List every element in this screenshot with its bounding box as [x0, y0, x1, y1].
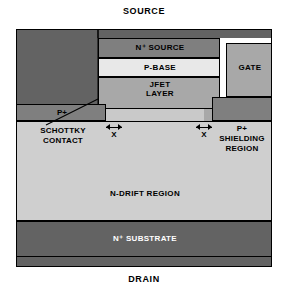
region-p-plus-left: P+ — [16, 104, 106, 121]
dimension-x-left: X — [106, 123, 122, 143]
region-n-substrate-label: N⁺ SUBSTRATE — [17, 235, 273, 244]
region-n-drift-label: N-DRIFT REGION — [17, 190, 273, 199]
region-p-base-label: P-BASE — [99, 64, 221, 73]
region-p-plus-label: P+ — [57, 109, 97, 118]
drain-terminal-label: DRAIN — [0, 275, 288, 284]
schottky-contact-label: SCHOTTKY CONTACT — [20, 126, 106, 146]
schottky-metal-block — [16, 29, 98, 104]
region-p-base: P-BASE — [98, 58, 220, 77]
region-gate: GATE — [226, 43, 272, 97]
drain-metal-layer — [16, 257, 272, 267]
region-jfet-layer: JFET LAYER — [98, 77, 220, 109]
p-shielding-region-label: P+ SHIELDING REGION — [206, 124, 278, 154]
source-terminal-label: SOURCE — [0, 7, 288, 16]
region-n-substrate: N⁺ SUBSTRATE — [16, 221, 272, 257]
region-gate-label: GATE — [227, 64, 273, 73]
dimension-x-right-label: X — [196, 130, 212, 139]
region-n-source: N⁺ SOURCE — [98, 38, 220, 58]
jfet-notch-right — [204, 109, 212, 121]
dimension-x-left-label: X — [106, 130, 122, 139]
region-p-plus-shielding — [212, 97, 272, 121]
dimension-x-right: X — [196, 123, 212, 143]
region-jfet-layer-label: JFET LAYER — [99, 81, 221, 98]
diagram-canvas: SOURCE N⁺ SOURCE P-BASE JFET LAYER GATE … — [0, 0, 288, 295]
region-n-source-label: N⁺ SOURCE — [99, 44, 221, 53]
device-cross-section: N⁺ SOURCE P-BASE JFET LAYER GATE OXIDE P… — [16, 29, 272, 267]
